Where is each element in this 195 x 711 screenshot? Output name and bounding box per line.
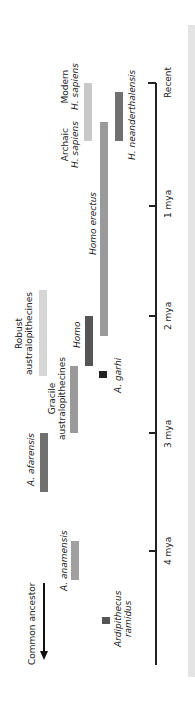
tick-1mya	[149, 205, 156, 207]
label-ardipithecus: Ardipithecusramidus	[113, 591, 133, 647]
tick-label-4mya: 4 mya	[163, 537, 173, 565]
common-ancestor-arrow-line	[43, 583, 45, 653]
bar-robust-australopithecines	[39, 290, 47, 376]
label-modern: ModernH. sapiens	[60, 63, 80, 110]
bar-gracile-australopithecines	[70, 366, 78, 433]
side-strip	[188, 25, 195, 677]
tick-2mya	[149, 315, 156, 317]
bar-a-garhi	[99, 371, 107, 378]
tick-label-2mya: 2 mya	[163, 302, 173, 330]
label-common-ancestor: Common ancestor	[27, 582, 37, 665]
label-gracile: Gracileaustralopithecines	[47, 357, 67, 440]
tick-label-1mya: 1 mya	[163, 190, 173, 218]
time-axis	[155, 83, 157, 665]
bar-modern-sapiens	[84, 83, 92, 141]
label-archaic: ArchaicH. sapiens	[60, 121, 80, 168]
tick-label-3mya: 3 mya	[163, 420, 173, 448]
bar-ardipithecus	[102, 617, 110, 624]
label-homo-erectus: Homo erectus	[88, 192, 98, 255]
bar-a-afarensis	[40, 433, 48, 492]
bar-a-anamensis	[71, 541, 79, 580]
bar-homo	[85, 316, 93, 366]
label-homo: Homo	[72, 321, 82, 348]
bar-homo-erectus	[100, 122, 108, 336]
arrow-down-icon	[40, 651, 48, 660]
label-a-anamensis: A. anamensis	[59, 530, 69, 591]
tick-3mya	[149, 432, 156, 434]
tick-4mya	[149, 550, 156, 552]
axis-recent-cap	[148, 82, 156, 84]
bar-neanderthalensis	[115, 92, 123, 141]
label-neanderthalensis: H. neanderthalensis	[127, 70, 137, 160]
label-robust: Robustaustralopithecines	[14, 292, 34, 375]
label-a-garhi: A. garhi	[113, 358, 123, 393]
label-a-afarensis: A. afarensis	[26, 433, 36, 486]
tick-label-recent: Recent	[163, 67, 173, 98]
